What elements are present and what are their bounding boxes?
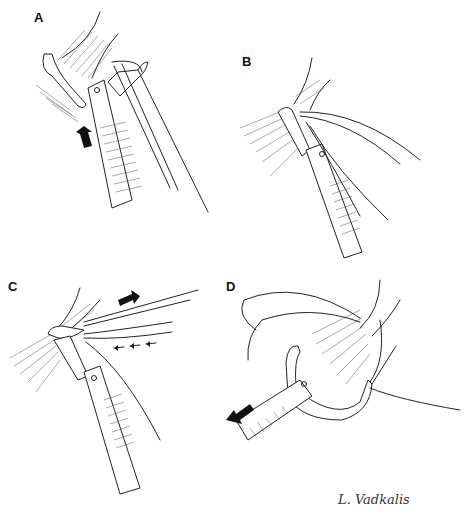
panel-b bbox=[240, 58, 420, 258]
illustration-canvas bbox=[0, 0, 474, 522]
panel-d bbox=[226, 280, 460, 440]
arrow-up-icon bbox=[76, 126, 92, 148]
panel-a bbox=[36, 12, 208, 212]
panel-c bbox=[10, 288, 198, 494]
artist-signature: L. Vadkalis bbox=[338, 492, 410, 507]
arrow-right-icon bbox=[118, 290, 140, 306]
